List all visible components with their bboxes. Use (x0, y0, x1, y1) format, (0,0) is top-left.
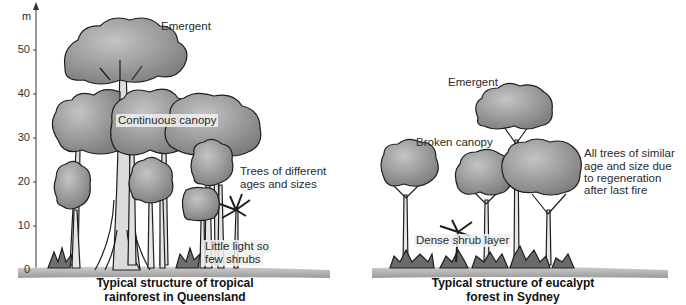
label-emergent-eucalypt: Emergent (448, 76, 498, 89)
axis-tick-40: 40 (10, 87, 30, 99)
caption-eucalypt-line2: forest in Sydney (398, 290, 628, 304)
label-dense-shrub: Dense shrub layer (414, 234, 511, 247)
label-broken-canopy: Broken canopy (416, 136, 493, 149)
caption-eucalypt: Typical structure of eucalypt forest in … (398, 276, 628, 304)
label-trees-different-1: Trees of different (240, 165, 326, 178)
forest-structure-diagram: m 50 40 30 20 10 0 Emergent Continuous c… (0, 0, 686, 305)
axis-tick-30: 30 (10, 131, 30, 143)
label-continuous-canopy: Continuous canopy (116, 114, 218, 127)
axis-tick-50: 50 (10, 43, 30, 55)
height-axis (33, 2, 39, 271)
label-little-light-1: Little light so (203, 240, 271, 253)
axis-tick-0: 0 (10, 263, 30, 275)
caption-rainforest-line1: Typical structure of tropical (60, 276, 290, 290)
axis-tick-10: 10 (10, 219, 30, 231)
caption-rainforest: Typical structure of tropical rainforest… (60, 276, 290, 304)
label-similar-4: after last fire (584, 184, 647, 197)
caption-eucalypt-line1: Typical structure of eucalypt (398, 276, 628, 290)
label-trees-different-2: ages and sizes (240, 178, 317, 191)
label-emergent-rainforest: Emergent (161, 20, 211, 33)
axis-unit-label: m (22, 10, 31, 23)
axis-tick-20: 20 (10, 175, 30, 187)
label-similar-1: All trees of similar (584, 147, 675, 160)
label-little-light-2: few shrubs (203, 253, 263, 266)
rainforest-trees (48, 18, 261, 270)
caption-rainforest-line2: rainforest in Queensland (60, 290, 290, 304)
